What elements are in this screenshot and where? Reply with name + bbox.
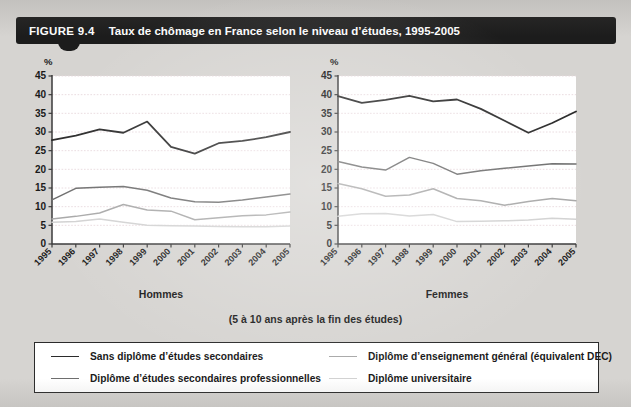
svg-text:15: 15 bbox=[35, 182, 47, 193]
figure-title-bar: FIGURE 9.4 Taux de chômage en France sel… bbox=[16, 17, 616, 44]
legend-label-universitaire: Diplôme universitaire bbox=[368, 373, 472, 384]
svg-text:40: 40 bbox=[321, 89, 333, 100]
svg-text:2005: 2005 bbox=[270, 246, 291, 267]
legend-label-secondaires-professionnelles: Diplôme d’études secondaires professionn… bbox=[90, 373, 321, 384]
svg-text:2001: 2001 bbox=[175, 246, 196, 267]
legend-item-sans-diplome: Sans diplôme d’études secondaires bbox=[35, 351, 321, 362]
svg-text:1999: 1999 bbox=[413, 246, 434, 267]
svg-text:10: 10 bbox=[321, 201, 333, 212]
svg-text:5: 5 bbox=[326, 220, 332, 231]
legend-item-enseignement-general: Diplôme d’enseignement général (équivale… bbox=[321, 351, 612, 362]
svg-text:1996: 1996 bbox=[342, 246, 363, 267]
svg-text:45: 45 bbox=[35, 70, 47, 81]
svg-text:45: 45 bbox=[321, 70, 333, 81]
line-chart-femmes: 0510152025303540451995199619971998199920… bbox=[312, 70, 582, 290]
figure-number: FIGURE 9.4 bbox=[16, 25, 95, 37]
svg-text:2004: 2004 bbox=[532, 246, 553, 267]
svg-text:2004: 2004 bbox=[246, 246, 267, 267]
svg-text:1997: 1997 bbox=[366, 246, 387, 267]
svg-text:30: 30 bbox=[321, 126, 333, 137]
figure-title: Taux de chômage en France selon le nivea… bbox=[95, 25, 460, 37]
svg-text:2000: 2000 bbox=[151, 246, 172, 267]
svg-text:1995: 1995 bbox=[32, 246, 53, 267]
svg-text:35: 35 bbox=[35, 108, 47, 119]
svg-text:2002: 2002 bbox=[199, 246, 220, 267]
chart-caption-hommes: Hommes bbox=[26, 288, 296, 300]
svg-text:25: 25 bbox=[321, 145, 333, 156]
svg-text:1995: 1995 bbox=[318, 246, 339, 267]
svg-text:1997: 1997 bbox=[80, 246, 101, 267]
chart-caption-femmes: Femmes bbox=[312, 288, 582, 300]
svg-text:15: 15 bbox=[321, 182, 333, 193]
svg-text:1998: 1998 bbox=[390, 246, 411, 267]
svg-text:2001: 2001 bbox=[461, 246, 482, 267]
legend-label-enseignement-general: Diplôme d’enseignement général (équivale… bbox=[368, 351, 612, 362]
svg-text:1999: 1999 bbox=[127, 246, 148, 267]
svg-text:40: 40 bbox=[35, 89, 47, 100]
svg-text:2002: 2002 bbox=[485, 246, 506, 267]
svg-text:10: 10 bbox=[35, 201, 47, 212]
svg-text:35: 35 bbox=[321, 108, 333, 119]
svg-text:2005: 2005 bbox=[556, 246, 577, 267]
figure-legend: Sans diplôme d’études secondaires Diplôm… bbox=[34, 342, 599, 393]
y-axis-unit-label-left: % bbox=[44, 56, 52, 67]
figure-container: FIGURE 9.4 Taux de chômage en France sel… bbox=[0, 0, 631, 407]
svg-text:30: 30 bbox=[35, 126, 47, 137]
legend-swatch-secondaires-professionnelles bbox=[51, 378, 79, 379]
svg-text:5: 5 bbox=[40, 220, 46, 231]
svg-text:2003: 2003 bbox=[223, 246, 244, 267]
svg-text:25: 25 bbox=[35, 145, 47, 156]
legend-label-sans-diplome: Sans diplôme d’études secondaires bbox=[90, 351, 263, 362]
line-chart-hommes: 0510152025303540451995199619971998199920… bbox=[26, 70, 296, 290]
svg-text:2003: 2003 bbox=[509, 246, 530, 267]
y-axis-unit-label-right: % bbox=[330, 56, 338, 67]
legend-swatch-enseignement-general bbox=[329, 356, 357, 357]
svg-text:20: 20 bbox=[35, 164, 47, 175]
svg-text:2000: 2000 bbox=[437, 246, 458, 267]
figure-sub-caption: (5 à 10 ans après la fin des études) bbox=[0, 313, 631, 325]
svg-text:1996: 1996 bbox=[56, 246, 77, 267]
svg-text:1998: 1998 bbox=[104, 246, 125, 267]
svg-text:20: 20 bbox=[321, 164, 333, 175]
legend-swatch-universitaire bbox=[329, 378, 357, 379]
legend-item-universitaire: Diplôme universitaire bbox=[321, 373, 612, 384]
legend-swatch-sans-diplome bbox=[51, 356, 79, 357]
legend-item-secondaires-professionnelles: Diplôme d’études secondaires professionn… bbox=[35, 373, 321, 384]
